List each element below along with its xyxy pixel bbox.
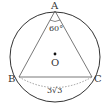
- geometry-diagram: A B C O 60° 3√3: [0, 0, 104, 103]
- label-b: B: [8, 73, 15, 84]
- label-o: O: [51, 57, 59, 68]
- label-a: A: [50, 0, 59, 11]
- label-c: C: [94, 73, 102, 84]
- angle-a-arc: [50, 20, 60, 22]
- side-bc-label: 3√3: [47, 86, 62, 95]
- angle-a-label: 60°: [49, 24, 63, 33]
- center-dot: [54, 53, 57, 56]
